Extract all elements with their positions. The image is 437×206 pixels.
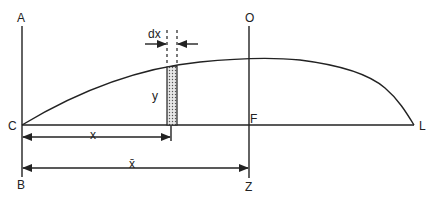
label-dx: dx bbox=[148, 27, 161, 41]
centroid-diagram: A B C O Z F L dx y x x̄ bbox=[0, 0, 437, 206]
label-o: O bbox=[245, 11, 254, 25]
elemental-strip bbox=[167, 66, 177, 125]
label-f: F bbox=[250, 112, 257, 126]
label-z: Z bbox=[245, 180, 252, 194]
label-xbar: x̄ bbox=[129, 157, 135, 171]
label-l: L bbox=[419, 119, 426, 133]
label-y: y bbox=[152, 89, 158, 103]
label-b: B bbox=[17, 178, 25, 192]
label-c: C bbox=[8, 119, 17, 133]
label-a: A bbox=[17, 11, 25, 25]
boundary-curve bbox=[22, 58, 414, 125]
label-x: x bbox=[90, 128, 96, 142]
